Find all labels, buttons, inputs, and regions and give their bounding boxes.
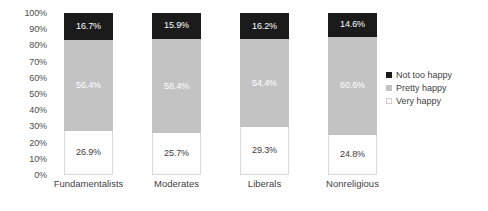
legend-item-pretty-happy[interactable]: Pretty happy <box>386 81 486 94</box>
bar-value-label: 14.6% <box>340 20 365 29</box>
legend-swatch-icon <box>386 85 392 91</box>
y-axis-tick: 70% <box>0 58 47 67</box>
legend-label: Pretty happy <box>396 83 447 93</box>
legend-label: Not too happy <box>396 70 452 80</box>
y-axis-tick: 90% <box>0 25 47 34</box>
bar-segment-not-too-happy[interactable]: 16.7% <box>64 13 113 40</box>
bar-value-label: 29.3% <box>252 146 277 155</box>
bar-segment-pretty-happy[interactable]: 60.6% <box>328 37 377 135</box>
y-axis-tick: 30% <box>0 122 47 131</box>
bar-stack-fundamentalists[interactable]: 16.7% 56.4% 26.9% <box>64 13 113 175</box>
x-axis: Fundamentalists Moderates Liberals Nonre… <box>49 178 380 198</box>
y-axis-tick: 80% <box>0 41 47 50</box>
bar-segment-very-happy[interactable]: 26.9% <box>64 131 113 175</box>
legend-label: Very happy <box>396 96 441 106</box>
bar-segment-not-too-happy[interactable]: 14.6% <box>328 13 377 37</box>
legend-swatch-icon <box>386 72 392 78</box>
y-axis-tick: 100% <box>0 9 47 18</box>
bar-value-label: 16.2% <box>252 22 277 31</box>
y-axis-tick: 10% <box>0 155 47 164</box>
bar-stack-liberals[interactable]: 16.2% 54.4% 29.3% <box>240 13 289 175</box>
y-axis-tick: 40% <box>0 106 47 115</box>
bar-stack-nonreligious[interactable]: 14.6% 60.6% 24.8% <box>328 13 377 175</box>
stacked-bar-chart: 100% 90% 80% 70% 60% 50% 40% 30% 20% 10%… <box>0 0 488 211</box>
bar-segment-not-too-happy[interactable]: 15.9% <box>152 13 201 39</box>
bar-segment-very-happy[interactable]: 29.3% <box>240 127 289 174</box>
bar-stack-moderates[interactable]: 15.9% 58.4% 25.7% <box>152 13 201 175</box>
y-axis-tick: 50% <box>0 90 47 99</box>
bar-value-label: 26.9% <box>76 148 101 157</box>
bar-segment-very-happy[interactable]: 25.7% <box>152 133 201 175</box>
bar-value-label: 60.6% <box>340 81 365 90</box>
bar-segment-pretty-happy[interactable]: 58.4% <box>152 39 201 134</box>
y-axis: 100% 90% 80% 70% 60% 50% 40% 30% 20% 10%… <box>0 13 49 175</box>
bar-value-label: 54.4% <box>252 79 277 88</box>
bar-value-label: 58.4% <box>164 82 189 91</box>
bar-segment-very-happy[interactable]: 24.8% <box>328 135 377 175</box>
y-axis-tick: 20% <box>0 139 47 148</box>
legend: Not too happy Pretty happy Very happy <box>386 68 486 107</box>
bar-value-label: 25.7% <box>164 149 189 158</box>
bar-segment-not-too-happy[interactable]: 16.2% <box>240 13 289 39</box>
x-axis-label-nonreligious: Nonreligious <box>298 178 408 189</box>
y-axis-tick: 60% <box>0 74 47 83</box>
bar-value-label: 16.7% <box>76 22 101 31</box>
bar-segment-pretty-happy[interactable]: 56.4% <box>64 40 113 131</box>
legend-swatch-icon <box>386 98 392 104</box>
plot-area: 16.7% 56.4% 26.9% 15.9% 58.4% 25.7% 16.2… <box>49 13 380 175</box>
bar-segment-pretty-happy[interactable]: 54.4% <box>240 39 289 127</box>
legend-item-very-happy[interactable]: Very happy <box>386 94 486 107</box>
bar-value-label: 56.4% <box>76 81 101 90</box>
bar-value-label: 15.9% <box>164 21 189 30</box>
legend-item-not-too-happy[interactable]: Not too happy <box>386 68 486 81</box>
bar-value-label: 24.8% <box>340 150 365 159</box>
